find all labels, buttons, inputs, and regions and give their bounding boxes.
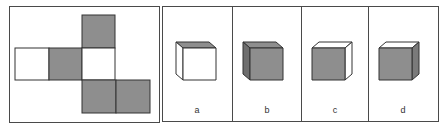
cube-b-front (250, 48, 283, 80)
net-square-center-left (49, 48, 82, 80)
cube-option-a[interactable] (176, 42, 216, 80)
net-square-left (15, 48, 49, 80)
cube-net (15, 15, 150, 113)
cube-option-c[interactable] (312, 42, 352, 80)
net-square-bottom-right (116, 80, 150, 113)
cube-b-side (243, 42, 250, 80)
option-label-b: b (252, 105, 282, 115)
cube-option-b[interactable] (243, 42, 283, 80)
cube-d-front (379, 48, 412, 80)
option-label-d: d (388, 105, 418, 115)
net-square-bottom (82, 80, 116, 113)
cube-c-front (312, 48, 345, 80)
cube-a-side (176, 42, 183, 80)
option-label-a: a (182, 105, 212, 115)
cube-c-side (345, 42, 352, 80)
cube-a-front (183, 48, 216, 80)
option-label-c: c (320, 105, 350, 115)
cube-option-d[interactable] (379, 42, 419, 80)
cube-d-side (412, 42, 419, 80)
net-square-top (82, 15, 115, 48)
figure-graphics (0, 0, 447, 127)
net-square-center (82, 48, 115, 80)
